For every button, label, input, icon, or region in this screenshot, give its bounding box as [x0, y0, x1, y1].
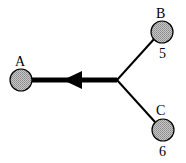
node-a — [10, 69, 32, 91]
node-b — [151, 21, 173, 43]
node-a-label: A — [15, 55, 25, 69]
node-b-value: 5 — [159, 47, 166, 61]
node-c — [152, 119, 174, 141]
arrow-head-icon — [63, 71, 82, 89]
node-c-label: C — [156, 104, 165, 118]
edge-b-junction — [117, 38, 155, 80]
edge-c-junction — [117, 80, 155, 122]
flow-diagram — [0, 0, 186, 163]
node-b-label: B — [156, 7, 165, 21]
node-c-value: 6 — [159, 145, 166, 159]
